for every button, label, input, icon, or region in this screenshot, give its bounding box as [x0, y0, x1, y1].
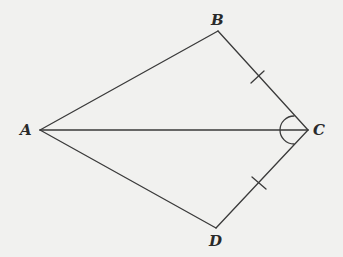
segment-cd	[216, 130, 308, 228]
label-a: A	[18, 121, 32, 139]
segment-ab	[40, 31, 218, 130]
kite-diagram: A B C D	[0, 0, 343, 257]
label-c: C	[313, 121, 325, 139]
tick-mark-bc	[251, 71, 264, 83]
label-d: D	[208, 232, 222, 250]
label-b: B	[210, 11, 224, 29]
segment-da	[40, 130, 216, 228]
segment-bc	[218, 31, 308, 130]
